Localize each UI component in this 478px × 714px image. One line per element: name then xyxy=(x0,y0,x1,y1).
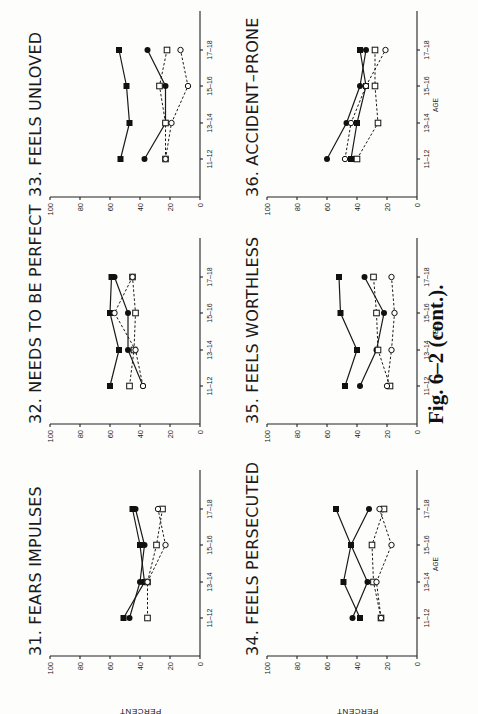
open-circle-marker xyxy=(342,156,347,161)
x-axis-label: AGE xyxy=(432,556,439,570)
filled-circle-marker xyxy=(125,347,131,353)
series-line xyxy=(130,509,145,618)
y-tick-label: 60 xyxy=(323,662,332,670)
open-square-marker xyxy=(372,47,378,53)
x-tick-label: 13–14 xyxy=(206,340,213,360)
y-tick-label: 0 xyxy=(196,203,205,207)
x-tick-label: 15–16 xyxy=(423,535,430,555)
filled-circle-marker xyxy=(357,83,363,89)
y-tick-label: 40 xyxy=(353,430,362,438)
open-circle-marker xyxy=(178,47,183,52)
open-circle-marker xyxy=(384,383,389,388)
open-square-marker xyxy=(372,83,378,89)
open-square-marker xyxy=(157,83,163,89)
series-line xyxy=(166,50,189,159)
y-tick-label: 100 xyxy=(263,662,272,675)
y-tick-label: 20 xyxy=(383,662,392,670)
y-tick-label: 40 xyxy=(353,662,362,670)
filled-circle-marker xyxy=(348,542,354,548)
open-circle-marker xyxy=(363,83,368,88)
open-circle-marker xyxy=(374,579,379,584)
series-line xyxy=(374,277,391,386)
filled-square-marker xyxy=(107,383,113,389)
filled-circle-marker xyxy=(142,156,148,162)
y-tick-label: 80 xyxy=(293,203,302,211)
line-chart: 02040608010011–1213–1415–1617–18 xyxy=(6,226,224,464)
x-tick-label: 11–12 xyxy=(423,608,430,627)
y-tick-label: 100 xyxy=(263,203,272,216)
open-circle-marker xyxy=(140,383,145,388)
open-circle-marker xyxy=(133,347,138,352)
open-circle-marker xyxy=(348,120,353,125)
y-tick-label: 0 xyxy=(196,662,205,666)
panel-35-feels-worthless: 35. FEELS WORTHLESS 02040608010011–1213–… xyxy=(223,226,441,464)
open-square-marker xyxy=(354,156,360,162)
filled-square-marker xyxy=(357,47,363,53)
series-line xyxy=(336,509,360,618)
filled-square-marker xyxy=(333,506,339,512)
y-tick-label: 60 xyxy=(106,662,115,670)
y-tick-label: 40 xyxy=(353,203,362,211)
filled-circle-marker xyxy=(142,542,148,548)
open-circle-marker xyxy=(112,310,117,315)
open-square-marker xyxy=(374,310,380,316)
y-tick-label: 60 xyxy=(323,430,332,438)
filled-circle-marker xyxy=(125,310,131,316)
y-tick-label: 0 xyxy=(413,662,422,666)
filled-circle-marker xyxy=(324,156,330,162)
x-tick-label: 13–14 xyxy=(423,113,430,133)
open-circle-marker xyxy=(163,156,168,161)
panel-32-needs-to-be-perfect: 32. NEEDS TO BE PERFECT 02040608010011–1… xyxy=(6,226,224,464)
filled-circle-marker xyxy=(363,47,369,53)
x-tick-label: 17–18 xyxy=(423,499,430,519)
x-tick-label: 11–12 xyxy=(206,608,213,627)
series-line xyxy=(351,509,369,618)
series-line xyxy=(372,509,384,618)
x-axis-label: AGE xyxy=(432,97,439,111)
y-tick-label: 60 xyxy=(106,203,115,211)
y-tick-label: 0 xyxy=(196,430,205,434)
line-chart: 02040608010011–1213–1415–1617–18 xyxy=(6,458,224,696)
open-circle-marker xyxy=(389,347,394,352)
y-tick-label: 80 xyxy=(76,203,85,211)
y-tick-label: 40 xyxy=(136,430,145,438)
filled-circle-marker xyxy=(112,274,118,280)
y-tick-label: 20 xyxy=(166,203,175,211)
series-line xyxy=(115,277,144,386)
series-line xyxy=(339,277,357,386)
series-line xyxy=(148,509,163,618)
series-line xyxy=(345,50,386,159)
series-line xyxy=(327,50,366,159)
x-tick-label: 17–18 xyxy=(423,40,430,60)
panel-33-feels-unloved: 33. FEELS UNLOVED 02040608010011–1213–14… xyxy=(6,0,224,237)
filled-square-marker xyxy=(116,347,122,353)
y-tick-label: 100 xyxy=(46,662,55,675)
open-square-marker xyxy=(164,47,170,53)
x-tick-label: 17–18 xyxy=(206,40,213,60)
y-tick-label: 80 xyxy=(76,430,85,438)
x-tick-label: 15–16 xyxy=(206,76,213,96)
filled-square-marker xyxy=(354,120,360,126)
y-tick-label: 20 xyxy=(166,662,175,670)
x-tick-label: 15–16 xyxy=(206,535,213,555)
x-tick-label: 15–16 xyxy=(423,76,430,96)
x-tick-label: 11–12 xyxy=(206,149,213,168)
y-tick-label: 100 xyxy=(46,430,55,443)
open-square-marker xyxy=(127,383,133,389)
y-tick-label: 80 xyxy=(76,662,85,670)
filled-square-marker xyxy=(124,83,130,89)
filled-square-marker xyxy=(118,156,124,162)
x-tick-label: 17–18 xyxy=(206,267,213,287)
y-tick-label: 80 xyxy=(293,430,302,438)
panel-31-fears-impulses: 31. FEARS IMPULSES PERCENT 0204060801001… xyxy=(6,458,224,696)
filled-square-marker xyxy=(357,615,363,621)
open-square-marker xyxy=(145,615,151,621)
open-circle-marker xyxy=(169,120,174,125)
open-square-marker xyxy=(371,274,377,280)
y-tick-label: 100 xyxy=(46,203,55,216)
series-line xyxy=(130,277,136,386)
open-circle-marker xyxy=(145,579,150,584)
x-tick-label: 17–18 xyxy=(206,499,213,519)
open-circle-marker xyxy=(392,310,397,315)
open-circle-marker xyxy=(130,274,135,279)
